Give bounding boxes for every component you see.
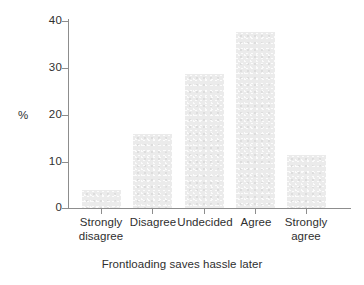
y-axis-title: %	[18, 109, 28, 121]
x-axis-tick-1	[152, 209, 153, 214]
x-axis-category-label-line1: Undecided	[177, 216, 232, 228]
y-axis-tick-label-30-wrap: 30	[24, 62, 62, 74]
x-axis-category-label-line2: agree	[273, 230, 339, 244]
x-axis-category-label-line2: disagree	[68, 230, 134, 244]
y-axis-line	[68, 19, 69, 209]
bar-disagree	[133, 134, 172, 209]
y-axis-tick-label-10-wrap: 10	[24, 156, 62, 168]
plot-area: 40 30 20 10 0 % Strongly disagree	[0, 0, 364, 285]
x-axis-category-label-strongly-agree: Strongly agree	[273, 216, 339, 243]
x-axis-category-label-line1: Agree	[241, 216, 272, 228]
y-axis-tick-label-40: 40	[34, 15, 62, 27]
bar-strongly-disagree	[82, 190, 121, 209]
x-axis-category-label-line1: Strongly	[285, 216, 328, 228]
y-axis-tick-label-0-wrap: 0	[24, 202, 62, 214]
y-axis-tick-label-20-wrap: 20	[24, 109, 62, 121]
x-axis-tick-2	[204, 209, 205, 214]
x-axis-tick-0	[101, 209, 102, 214]
y-axis-tick-label-10: 10	[34, 156, 62, 168]
y-axis-tick-label-0: 0	[34, 202, 62, 214]
bar-agree	[236, 32, 275, 209]
x-axis-line	[68, 208, 351, 209]
bar-undecided	[185, 74, 224, 208]
y-axis-tick-label-40-wrap: 40	[24, 15, 62, 27]
x-axis-category-label-line1: Strongly	[80, 216, 123, 228]
x-axis-title: Frontloading saves hassle later	[0, 258, 364, 271]
y-axis-tick-30	[62, 68, 69, 69]
y-axis-tick-20	[62, 115, 69, 116]
y-axis-tick-label-30: 30	[34, 62, 62, 74]
x-axis-tick-3	[255, 209, 256, 214]
x-axis-tick-4	[306, 209, 307, 214]
y-axis-tick-10	[62, 162, 69, 163]
bar-strongly-agree	[287, 155, 326, 209]
y-axis-tick-40	[62, 21, 69, 22]
y-axis-tick-label-20: 20	[34, 109, 62, 121]
bar-chart: 40 30 20 10 0 % Strongly disagree	[0, 0, 364, 285]
